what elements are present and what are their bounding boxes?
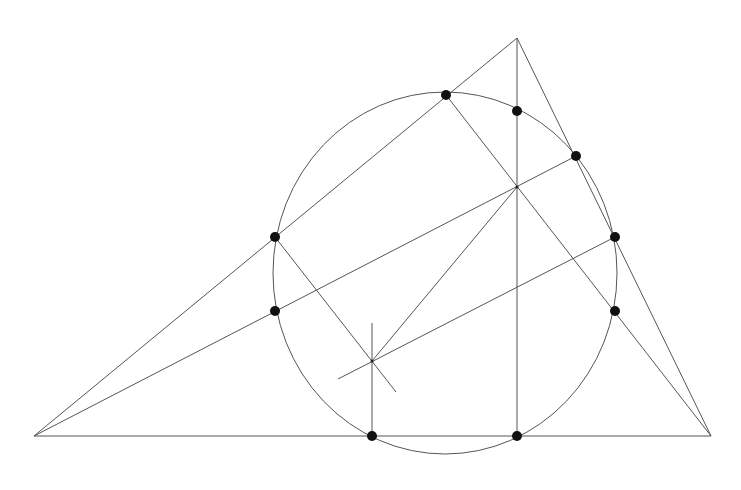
point-midpoint-ch [512, 106, 522, 116]
euler-line [372, 187, 517, 361]
point-foot-altitude-a [571, 151, 581, 161]
circumcenter-mark [371, 360, 374, 363]
point-midpoint-ac [270, 232, 280, 242]
perp-bisector-ac [275, 237, 396, 392]
perp-bisector-bc [338, 237, 615, 379]
point-midpoint-ah [270, 306, 280, 316]
nine-point-circle-diagram [0, 0, 741, 490]
altitude-from-b [446, 95, 711, 436]
point-foot-altitude-b [441, 90, 451, 100]
point-foot-altitude-c [512, 431, 522, 441]
point-midpoint-ab [367, 431, 377, 441]
altitude-from-a [34, 156, 576, 436]
point-midpoint-bh [610, 306, 620, 316]
point-midpoint-bc [610, 232, 620, 242]
orthocenter-mark [516, 186, 519, 189]
